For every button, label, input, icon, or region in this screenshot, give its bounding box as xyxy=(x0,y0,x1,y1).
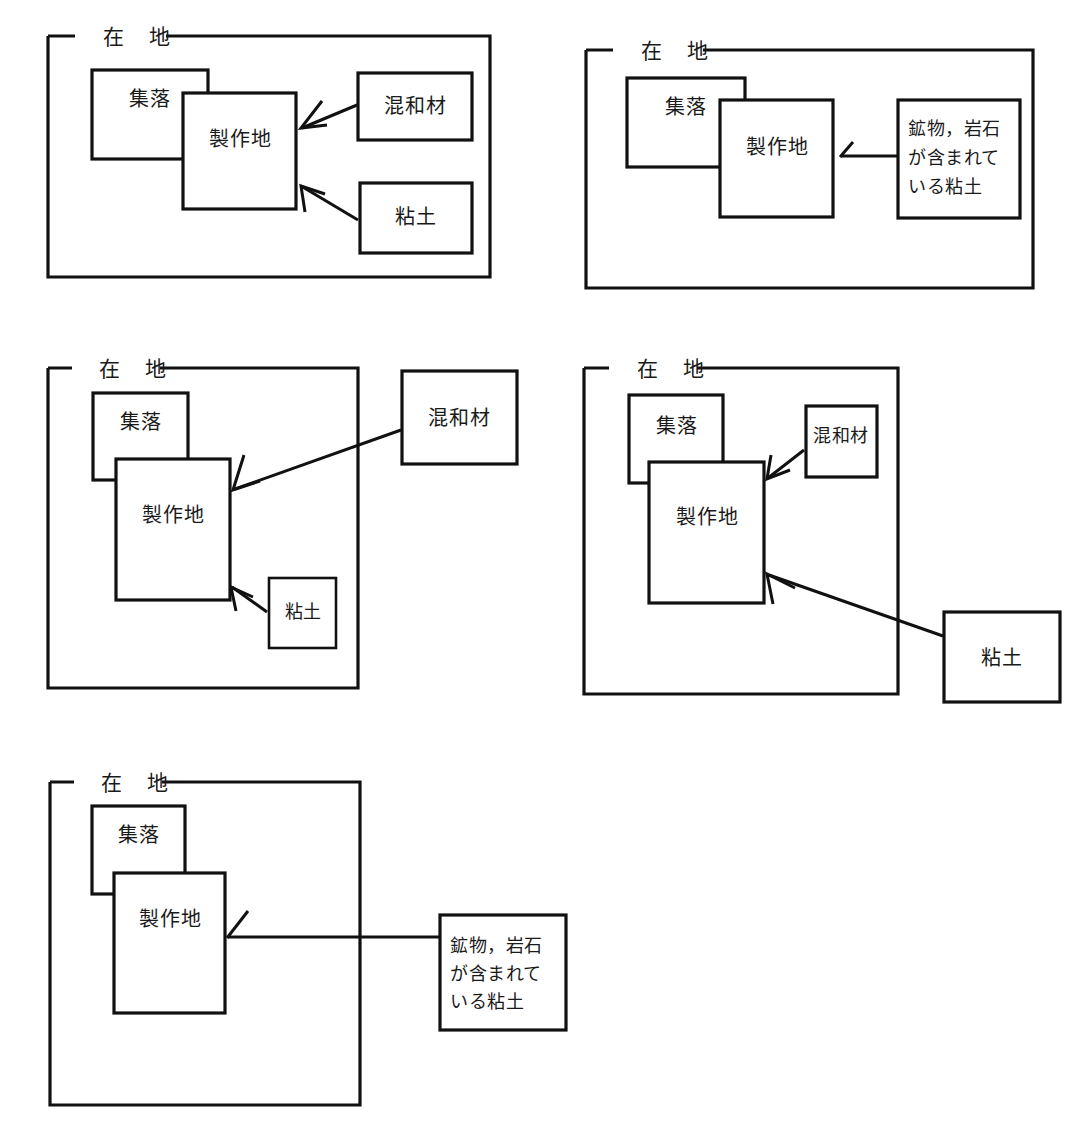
panel-3-production-label: 製作地 xyxy=(142,503,205,527)
panel-1-clay-label: 粘土 xyxy=(395,205,437,229)
panel-1-zaichi-label: 在 地 xyxy=(103,25,179,49)
panel-4-clay-label: 粘土 xyxy=(981,646,1023,670)
panel-2-settlement-label: 集落 xyxy=(665,95,707,119)
panel-5-zaichi-label: 在 地 xyxy=(101,771,177,795)
panel-4-production-label: 製作地 xyxy=(676,505,739,529)
panel-2-clay-mineral-line-3: いる粘土 xyxy=(908,176,982,197)
panel-4-clay-connector xyxy=(769,575,943,636)
panel-5-production-label: 製作地 xyxy=(139,907,202,931)
panel-4: 在 地 集落 製作地 混和材 粘土 xyxy=(584,357,1060,702)
panel-3-settlement-label: 集落 xyxy=(120,410,162,434)
panel-2-zaichi-label: 在 地 xyxy=(641,39,717,63)
figure-root: 在 地 集落 製作地 混和材 粘土 在 地 集落 xyxy=(0,0,1088,1147)
diagram-canvas: 在 地 集落 製作地 混和材 粘土 在 地 集落 xyxy=(0,0,1088,1147)
panel-3-temper-arrowhead xyxy=(233,455,260,490)
panel-1-temper-label: 混和材 xyxy=(384,94,447,118)
panel-5-settlement-label: 集落 xyxy=(118,823,160,847)
panel-2-production-label: 製作地 xyxy=(746,135,809,159)
panel-1-clay-arrow xyxy=(301,186,358,220)
panel-5-clay-mineral-line-1: 鉱物，岩石 xyxy=(450,935,543,956)
panel-3-zaichi-label: 在 地 xyxy=(99,357,175,381)
panel-3-temper-connector xyxy=(235,430,401,489)
panel-5-clay-mineral-tick xyxy=(227,911,248,938)
panel-4-temper-connector xyxy=(768,450,804,478)
panel-3-production-box xyxy=(116,459,230,600)
panel-1-production-box xyxy=(183,93,296,209)
panel-1-production-label: 製作地 xyxy=(209,127,272,151)
panel-2-production-box xyxy=(720,100,833,217)
panel-4-settlement-label: 集落 xyxy=(656,414,698,438)
panel-5: 在 地 集落 製作地 鉱物，岩石 が含まれて いる粘土 xyxy=(50,771,566,1105)
panel-3-temper-label: 混和材 xyxy=(428,406,491,430)
panel-2-clay-mineral-line-2: が含まれて xyxy=(908,147,1000,168)
panel-3-clay-label: 粘土 xyxy=(285,601,322,622)
panel-1-settlement-label: 集落 xyxy=(129,87,171,111)
panel-5-clay-mineral-line-2: が含まれて xyxy=(450,963,542,984)
panel-4-zaichi-label: 在 地 xyxy=(637,357,713,381)
panel-4-temper-label: 混和材 xyxy=(813,425,869,446)
panel-5-clay-mineral-line-3: いる粘土 xyxy=(450,991,524,1012)
panel-3: 在 地 集落 製作地 混和材 粘土 xyxy=(48,357,517,688)
panel-1: 在 地 集落 製作地 混和材 粘土 xyxy=(48,25,490,277)
panel-5-production-box xyxy=(114,873,225,1013)
panel-4-production-box xyxy=(649,462,764,603)
panel-2-clay-mineral-line-1: 鉱物，岩石 xyxy=(908,118,1001,139)
panel-2: 在 地 集落 製作地 鉱物，岩石 が含まれて いる粘土 xyxy=(586,39,1033,288)
